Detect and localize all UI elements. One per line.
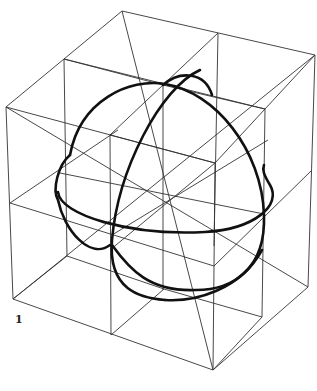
outer-cube-edges [6,11,315,370]
vertex-label: 1 [15,313,23,326]
body-diagonals [6,11,315,370]
cube-sphere-diagram [0,0,317,391]
sphere-curve [56,70,273,300]
